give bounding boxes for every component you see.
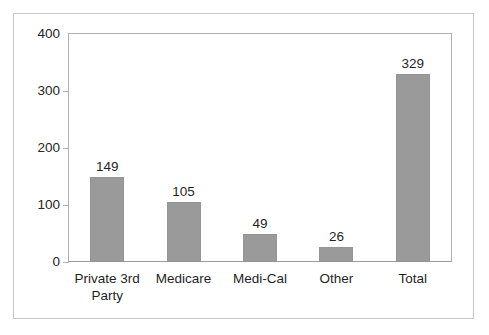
x-axis-category-label-line: Other <box>320 270 354 287</box>
bar-chart-figure: 0100200300400 1491054926329 Private 3rdP… <box>0 0 489 335</box>
y-axis-tick-mark <box>63 148 69 149</box>
bar-value-label: 49 <box>252 217 267 231</box>
bar-value-label: 149 <box>96 160 119 174</box>
y-axis-tick-mark <box>63 262 69 263</box>
bar-value-label: 329 <box>402 57 425 71</box>
x-axis-category-label: Medi-Cal <box>233 270 287 287</box>
y-axis-tick-label: 100 <box>8 198 60 212</box>
bars-layer: 1491054926329 <box>69 34 451 262</box>
bar <box>396 74 430 262</box>
x-axis-category-label-line: Medi-Cal <box>233 270 287 287</box>
x-axis-category-label-line: Total <box>399 270 428 287</box>
y-axis-tick-label: 0 <box>8 255 60 269</box>
y-axis: 0100200300400 <box>8 0 60 335</box>
x-axis-category-label: Private 3rdParty <box>75 270 140 304</box>
x-axis-category-label-line: Private 3rd <box>75 270 140 287</box>
y-axis-tick-mark <box>63 91 69 92</box>
x-axis-category-label-line: Party <box>75 287 140 304</box>
bar <box>167 202 201 262</box>
y-axis-tick-label: 400 <box>8 27 60 41</box>
x-axis-category-label: Total <box>399 270 428 287</box>
y-axis-tick-label: 200 <box>8 141 60 155</box>
bar <box>90 177 124 262</box>
x-axis-category-label: Other <box>320 270 354 287</box>
x-axis-category-label: Medicare <box>156 270 212 287</box>
y-axis-tick-mark <box>63 205 69 206</box>
bar <box>319 247 353 262</box>
bar-value-label: 105 <box>172 185 195 199</box>
x-axis-category-labels: Private 3rdPartyMedicareMedi-CalOtherTot… <box>69 270 451 320</box>
y-axis-tick-label: 300 <box>8 84 60 98</box>
bar <box>243 234 277 262</box>
bar-value-label: 26 <box>329 230 344 244</box>
x-axis-category-label-line: Medicare <box>156 270 212 287</box>
